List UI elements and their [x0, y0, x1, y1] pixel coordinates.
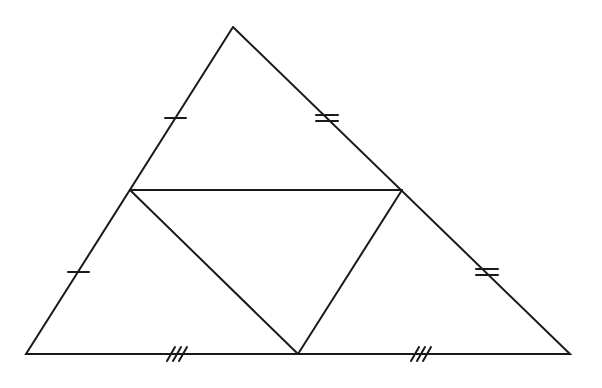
double-tick-lower-right — [476, 269, 498, 275]
midsegment-right — [298, 190, 402, 354]
midsegment-left — [130, 190, 298, 354]
diagram-canvas — [0, 0, 602, 388]
triple-tick-base-left — [167, 347, 187, 361]
triangle-diagram — [0, 0, 602, 388]
triple-tick-base-right — [411, 347, 431, 361]
